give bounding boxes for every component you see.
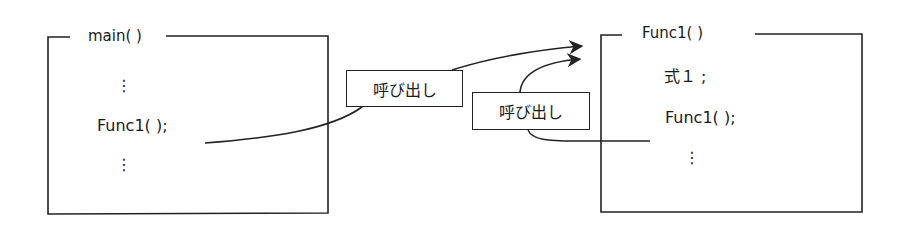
recursive-line <box>528 130 650 141</box>
main-ellipsis-top: ⋮ <box>116 76 132 96</box>
func1-recursive-call: Func1( ); <box>665 108 736 128</box>
func1-expression: 式１ ; <box>664 67 706 87</box>
call-callout-1: 呼び出し <box>346 70 463 107</box>
main-title: main( ) <box>84 27 146 45</box>
call-callout-2: 呼び出し <box>472 92 590 130</box>
func1-ellipsis: ⋮ <box>684 148 700 168</box>
func1-title: Func1( ) <box>638 24 707 42</box>
main-call-func1: Func1( ); <box>97 116 168 136</box>
call-arrow-2 <box>520 59 580 92</box>
main-box-frame <box>48 36 328 214</box>
main-ellipsis-bottom: ⋮ <box>116 155 132 175</box>
